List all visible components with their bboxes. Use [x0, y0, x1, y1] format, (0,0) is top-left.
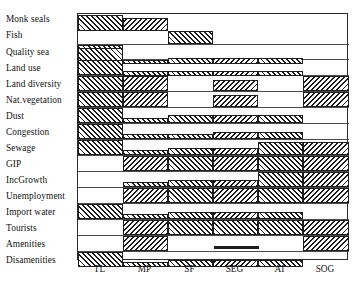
- chart-root: Monk seals Fish Quality sea Land use Lan…: [0, 0, 353, 283]
- bar-dust-seg: [213, 115, 258, 123]
- bar-incgrowth-mp: [123, 182, 168, 187]
- bar-incgrowth-ai: [258, 172, 303, 187]
- bar-fish-sf: [168, 31, 213, 44]
- row-label-column: Monk seals Fish Quality sea Land use Lan…: [0, 0, 77, 283]
- bar-congestion-seg: [213, 132, 258, 139]
- bar-unemployment-mp: [123, 188, 168, 203]
- bar-land-diversity-tl: [78, 76, 123, 91]
- row-label-amenities: Amenities: [6, 239, 76, 249]
- row-label-land-use: Land use: [6, 63, 76, 73]
- x-tick-sog: SOG: [302, 264, 348, 275]
- bar-dust-ai: [258, 115, 303, 123]
- row-label-unemployment: Unemployment: [6, 191, 76, 201]
- bar-sewage-tl: [78, 140, 123, 155]
- bar-quality-sea-tl-cap: [78, 45, 123, 49]
- bar-nat-vegetation-tl: [78, 92, 123, 107]
- bar-sewage-sf: [168, 148, 213, 155]
- row-label-congestion: Congestion: [6, 127, 76, 137]
- bar-dust-sf: [168, 115, 213, 123]
- x-tick-tl: TL: [77, 264, 122, 275]
- bar-amenities-sog: [303, 236, 349, 251]
- bar-amenities-mp: [123, 236, 168, 251]
- x-axis: TL MP SF SEG AI SOG: [77, 261, 348, 281]
- bar-import-water-sf: [168, 212, 213, 219]
- row-label-monk-seals: Monk seals: [6, 14, 76, 24]
- bar-import-water-tl: [78, 204, 123, 219]
- bar-quality-sea-ai: [258, 58, 303, 64]
- bar-import-water-mp: [123, 214, 168, 219]
- bar-incgrowth-sog: [303, 172, 349, 187]
- bar-quality-sea-seg: [213, 58, 258, 64]
- row-label-tourists: Tourists: [6, 223, 76, 233]
- bar-gip-sog: [303, 156, 349, 171]
- x-tick-sf: SF: [167, 264, 212, 275]
- bar-amenities-seg-marker: [214, 246, 259, 249]
- bar-gip-mp: [123, 156, 168, 171]
- bar-congestion-mp: [123, 134, 168, 139]
- bar-congestion-tl: [78, 124, 123, 139]
- bar-land-use-ai: [258, 71, 303, 76]
- bar-gip-ai: [258, 156, 303, 171]
- row-label-disamenities: Disamenities: [6, 255, 76, 265]
- bar-land-use-sf: [168, 71, 213, 76]
- row-label-land-diversity: Land diversity: [6, 79, 76, 89]
- row-label-sewage: Sewage: [6, 143, 76, 153]
- bar-tourists-seg: [213, 220, 258, 235]
- bar-nat-vegetation-sog: [303, 92, 349, 107]
- bar-congestion-sf: [168, 134, 213, 139]
- bar-congestion-ai: [258, 132, 303, 139]
- bar-monk-seals-tl: [78, 15, 123, 31]
- row-label-gip: GIP: [6, 159, 76, 169]
- row-label-dust: Dust: [6, 111, 76, 121]
- row-label-fish: Fish: [6, 30, 76, 40]
- bar-monk-seals-mp: [123, 18, 168, 31]
- x-tick-ai: AI: [257, 264, 302, 275]
- bar-nat-vegetation-seg: [213, 95, 258, 107]
- bar-land-diversity-sog: [303, 76, 349, 91]
- bar-dust-tl: [78, 108, 123, 123]
- bar-quality-sea-sf: [168, 58, 213, 64]
- bar-gip-sf: [168, 156, 213, 171]
- bar-tourists-ai: [258, 220, 303, 235]
- bar-quality-sea-mp-thin: [123, 60, 168, 64]
- bar-tourists-sf: [168, 220, 213, 235]
- bar-unemployment-sog: [303, 188, 349, 203]
- x-tick-mp: MP: [122, 264, 167, 275]
- bar-gip-seg: [213, 156, 258, 171]
- bar-sewage-mp: [123, 150, 168, 155]
- bar-land-diversity-mp: [123, 76, 168, 91]
- bar-land-use-seg: [213, 71, 258, 76]
- row-label-quality-sea: Quality sea: [6, 47, 76, 57]
- bar-land-use-tl: [78, 60, 123, 75]
- bar-land-diversity-seg: [213, 80, 258, 91]
- row-label-incgrowth: IncGrowth: [6, 175, 76, 185]
- row-label-import-water: Import water: [6, 207, 76, 217]
- bar-import-water-seg: [213, 212, 258, 219]
- bar-unemployment-ai: [258, 188, 303, 203]
- bar-unemployment-seg: [213, 188, 258, 203]
- bar-dust-mp: [123, 118, 168, 123]
- bar-tourists-mp: [123, 220, 168, 235]
- bar-incgrowth-sf: [168, 180, 213, 187]
- bar-tourists-sog: [303, 220, 349, 235]
- row-label-nat-vegetation: Nat.vegetation: [6, 95, 76, 105]
- bar-sewage-seg: [213, 148, 258, 155]
- bar-sewage-ai: [258, 142, 303, 155]
- bar-nat-vegetation-mp: [123, 92, 168, 107]
- bar-incgrowth-seg: [213, 180, 258, 187]
- bar-import-water-ai: [258, 212, 303, 219]
- bar-sewage-sog: [303, 142, 349, 155]
- x-tick-seg: SEG: [212, 264, 257, 275]
- bar-unemployment-sf: [168, 188, 213, 203]
- plot-area: [77, 13, 348, 260]
